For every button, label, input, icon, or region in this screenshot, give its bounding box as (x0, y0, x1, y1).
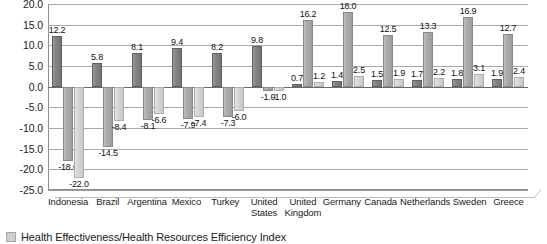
bar (383, 35, 393, 87)
bar-value-label: 5.8 (91, 52, 103, 62)
bar (412, 80, 422, 87)
x-tick-label: United Kingdom (284, 196, 323, 226)
bar (332, 81, 342, 87)
bar (212, 53, 222, 87)
bar-value-label: 1.8 (451, 68, 463, 78)
bar (492, 79, 502, 87)
bar (463, 17, 473, 87)
bar-value-label: -6.6 (152, 115, 167, 125)
bar-value-label: -1.0 (272, 92, 287, 102)
bar-group: 9.4-7.9-7.4 (168, 4, 208, 190)
x-tick-label: Greece (489, 196, 528, 226)
y-axis: 20.015.010.05.00.0-5.0-10.0-15.0-20.0-25… (0, 4, 43, 190)
bar-value-label: 8.1 (131, 42, 143, 52)
bar (194, 87, 204, 118)
bar-value-label: 1.7 (411, 69, 423, 79)
bar-value-label: 9.4 (171, 37, 183, 47)
bar-value-label: 2.2 (433, 67, 445, 77)
bar (474, 74, 484, 87)
x-axis-categories: IndonesiaBrazilArgentinaMexicoTurkeyUnit… (48, 196, 528, 226)
bar (234, 87, 244, 112)
bar (63, 87, 73, 161)
bar (252, 46, 262, 87)
x-tick-label: Canada (361, 196, 400, 226)
bar (354, 76, 364, 86)
y-tick-label: -10.0 (20, 122, 43, 134)
x-tick-label: United States (245, 196, 284, 226)
y-tick-label: -5.0 (25, 101, 43, 113)
bar-group: 9.8-1.0-1.0 (248, 4, 288, 190)
bar-chart: 20.015.010.05.00.0-5.0-10.0-15.0-20.0-25… (0, 0, 547, 244)
y-tick-label: 20.0 (23, 0, 43, 10)
bar (292, 84, 302, 87)
bar-groups: 12.2-18.0-22.05.8-14.5-8.48.1-8.1-6.69.4… (48, 4, 528, 190)
bar-value-label: 8.2 (211, 42, 223, 52)
bar-value-label: 2.4 (513, 66, 525, 76)
bar-group: 0.716.21.2 (288, 4, 328, 190)
y-tick-label: 0.0 (29, 81, 43, 93)
bar (263, 87, 273, 91)
bar (274, 87, 284, 91)
bar-value-label: 1.9 (393, 68, 405, 78)
bar-value-label: -7.4 (192, 118, 207, 128)
bar (434, 78, 444, 87)
bar-group: 1.418.02.5 (328, 4, 368, 190)
bar (314, 82, 324, 87)
x-tick-label: Mexico (167, 196, 206, 226)
bar-group: 5.8-14.5-8.4 (88, 4, 128, 190)
bar (514, 77, 524, 87)
bar-value-label: 1.2 (313, 71, 325, 81)
bar-value-label: -22.0 (69, 179, 89, 189)
y-tick-label: -15.0 (20, 143, 43, 155)
bar (452, 79, 462, 86)
y-tick-label: 10.0 (23, 39, 43, 51)
bar-group: 1.512.51.9 (368, 4, 408, 190)
bar-value-label: -8.4 (112, 122, 127, 132)
bar (394, 79, 404, 87)
plot-area: 12.2-18.0-22.05.8-14.5-8.48.1-8.1-6.69.4… (48, 4, 528, 190)
x-tick-label: Turkey (206, 196, 245, 226)
bar (114, 87, 124, 122)
chart-legend: Health Effectiveness/Health Resources Ef… (6, 231, 286, 243)
bar (423, 32, 433, 87)
bar (92, 63, 102, 87)
bar (132, 53, 142, 86)
legend-item-label: Health Effectiveness/Health Resources Ef… (21, 231, 286, 243)
legend-swatch-icon (6, 232, 16, 242)
x-tick-label: Indonesia (48, 196, 88, 226)
bar (343, 12, 353, 86)
bar-group: 1.912.72.4 (488, 4, 528, 190)
bar-group: 12.2-18.0-22.0 (48, 4, 88, 190)
bar-value-label: -6.0 (232, 112, 247, 122)
bar-value-label: 1.9 (491, 68, 503, 78)
bar-value-label: 1.4 (331, 70, 343, 80)
bar-value-label: 0.7 (291, 73, 303, 83)
bar (372, 80, 382, 86)
bar (74, 87, 84, 178)
x-tick-label: Argentina (127, 196, 167, 226)
bar (303, 20, 313, 87)
bar-value-label: 3.1 (473, 63, 485, 73)
y-tick-label: -20.0 (20, 163, 43, 175)
bar-group: 8.1-8.1-6.6 (128, 4, 168, 190)
bar (172, 48, 182, 87)
y-tick-label: -25.0 (20, 184, 43, 196)
bar (103, 87, 113, 147)
x-tick-label: Sweden (450, 196, 489, 226)
x-tick-label: Netherlands (400, 196, 450, 226)
bar-value-label: 2.5 (353, 65, 365, 75)
bar-group: 1.816.93.1 (448, 4, 488, 190)
x-tick-label: Germany (322, 196, 361, 226)
bar-value-label: 1.5 (371, 69, 383, 79)
bar (52, 36, 62, 86)
bar-group: 8.2-7.3-6.0 (208, 4, 248, 190)
y-tick-label: 15.0 (23, 19, 43, 31)
bar (154, 87, 164, 114)
bar-value-label: 9.8 (251, 35, 263, 45)
y-tick-label: 5.0 (29, 60, 43, 72)
bar (183, 87, 193, 120)
x-tick-label: Brazil (88, 196, 127, 226)
bar-group: 1.713.32.2 (408, 4, 448, 190)
bar (503, 34, 513, 86)
